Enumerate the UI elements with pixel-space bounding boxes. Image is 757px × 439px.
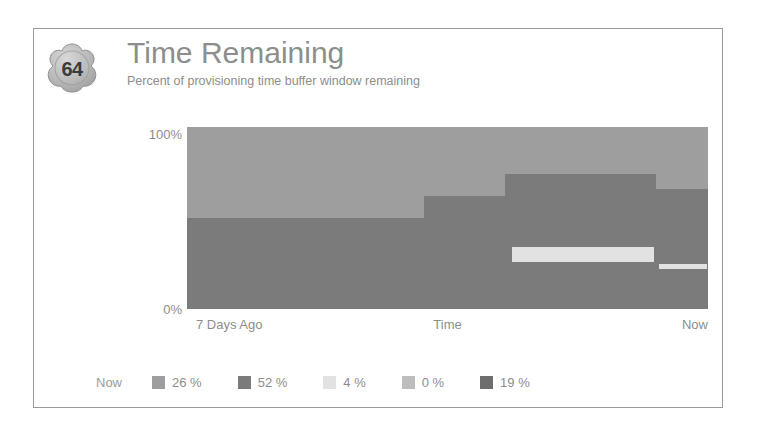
widget-header: 64 Time Remaining Percent of provisionin… xyxy=(34,29,722,107)
legend-item[interactable]: 0 % xyxy=(402,375,444,390)
score-badge: 64 xyxy=(45,42,99,94)
legend-item[interactable]: 19 % xyxy=(480,375,530,390)
stacked-area-plot[interactable] xyxy=(187,127,708,309)
x-axis-tick-right: Now xyxy=(682,317,708,332)
band-lower xyxy=(424,196,505,309)
band-lower xyxy=(505,174,656,309)
legend-label: 26 % xyxy=(172,375,202,390)
chart-area: 100% 0% 7 Days Ago Time Now xyxy=(34,107,722,342)
band-lower xyxy=(187,218,424,309)
band-upper xyxy=(424,127,505,196)
score-value: 64 xyxy=(45,42,99,94)
x-axis-tick-center: Time xyxy=(433,317,461,332)
legend-items: 26 %52 %4 %0 %19 % xyxy=(152,375,566,390)
band-light xyxy=(659,264,708,269)
legend-label: 0 % xyxy=(422,375,444,390)
band-upper xyxy=(505,127,656,174)
legend-item[interactable]: 26 % xyxy=(152,375,202,390)
band-lower xyxy=(656,189,708,309)
legend-now-label: Now xyxy=(96,375,122,390)
title-block: Time Remaining Percent of provisioning t… xyxy=(127,35,714,89)
legend-item[interactable]: 4 % xyxy=(323,375,365,390)
legend-swatch-icon xyxy=(238,376,251,389)
legend-swatch-icon xyxy=(152,376,165,389)
band-light xyxy=(512,247,654,262)
legend-label: 52 % xyxy=(258,375,288,390)
legend-swatch-icon xyxy=(480,376,493,389)
band-upper xyxy=(656,127,708,189)
x-axis-tick-left: 7 Days Ago xyxy=(196,317,263,332)
band-upper xyxy=(187,127,424,218)
y-axis-tick-bottom: 0% xyxy=(163,302,182,317)
widget-title: Time Remaining xyxy=(127,35,714,71)
y-axis: 100% 0% xyxy=(104,134,182,309)
legend-swatch-icon xyxy=(402,376,415,389)
y-axis-tick-top: 100% xyxy=(149,127,182,142)
legend-label: 19 % xyxy=(500,375,530,390)
legend-swatch-icon xyxy=(323,376,336,389)
widget-subtitle: Percent of provisioning time buffer wind… xyxy=(127,73,714,89)
chart-legend: Now 26 %52 %4 %0 %19 % xyxy=(34,371,722,393)
dashboard-widget: 64 Time Remaining Percent of provisionin… xyxy=(33,28,723,408)
legend-item[interactable]: 52 % xyxy=(238,375,288,390)
legend-label: 4 % xyxy=(343,375,365,390)
x-axis: 7 Days Ago Time Now xyxy=(187,317,708,337)
